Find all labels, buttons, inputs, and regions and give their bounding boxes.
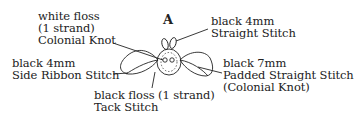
antenna-left-icon — [161, 38, 170, 50]
leader-line-colonial-knot — [113, 43, 163, 60]
leader-line-tack-stitch — [152, 72, 155, 88]
bee-illustration — [0, 0, 355, 115]
wing-left-icon — [121, 50, 159, 74]
leader-line-straight-stitch — [176, 29, 208, 41]
bee-body-icon — [157, 49, 181, 75]
eye-right-icon — [170, 58, 174, 62]
wing-right-icon — [180, 52, 213, 76]
eye-left-icon — [163, 58, 167, 62]
antenna-right-icon — [169, 37, 178, 49]
